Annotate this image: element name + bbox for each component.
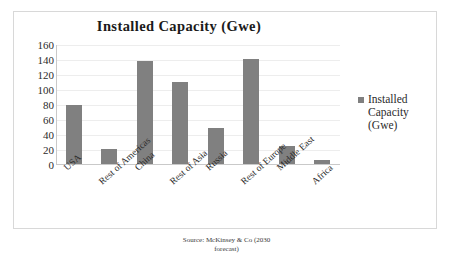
chart-legend: InstalledCapacity(Gwe) <box>358 93 436 132</box>
source-caption: Source: McKinsey & Co (2030 forecast) <box>0 236 453 254</box>
bar <box>243 59 259 165</box>
y-axis-tick-label: 0 <box>49 160 55 171</box>
y-axis-tick-label: 20 <box>43 145 54 156</box>
y-axis-tick-label: 60 <box>43 115 54 126</box>
x-axis-labels: USARest of AmericasChinaRest of AsiaRuss… <box>56 165 340 235</box>
legend-swatch-icon <box>358 97 364 103</box>
source-line-2: forecast) <box>0 245 453 254</box>
y-axis-tick-label: 80 <box>43 100 54 111</box>
bar <box>172 82 188 165</box>
legend-label: InstalledCapacity(Gwe) <box>368 93 409 132</box>
chart-screenshot: Installed Capacity (Gwe) 020406080100120… <box>0 0 453 258</box>
y-axis-tick-label: 40 <box>43 130 54 141</box>
y-axis-line <box>56 45 57 165</box>
y-axis-labels: 020406080100120140160 <box>22 45 54 165</box>
y-axis-tick-label: 160 <box>38 40 55 51</box>
y-axis-tick-label: 120 <box>38 70 55 81</box>
x-axis-tick-label: Africa <box>310 163 335 187</box>
chart-title: Installed Capacity (Gwe) <box>14 18 344 35</box>
chart-frame: Installed Capacity (Gwe) 020406080100120… <box>13 11 437 229</box>
y-axis-tick-label: 140 <box>38 55 55 66</box>
y-axis-tick-label: 100 <box>38 85 55 96</box>
source-line-1: Source: McKinsey & Co (2030 <box>0 236 453 245</box>
